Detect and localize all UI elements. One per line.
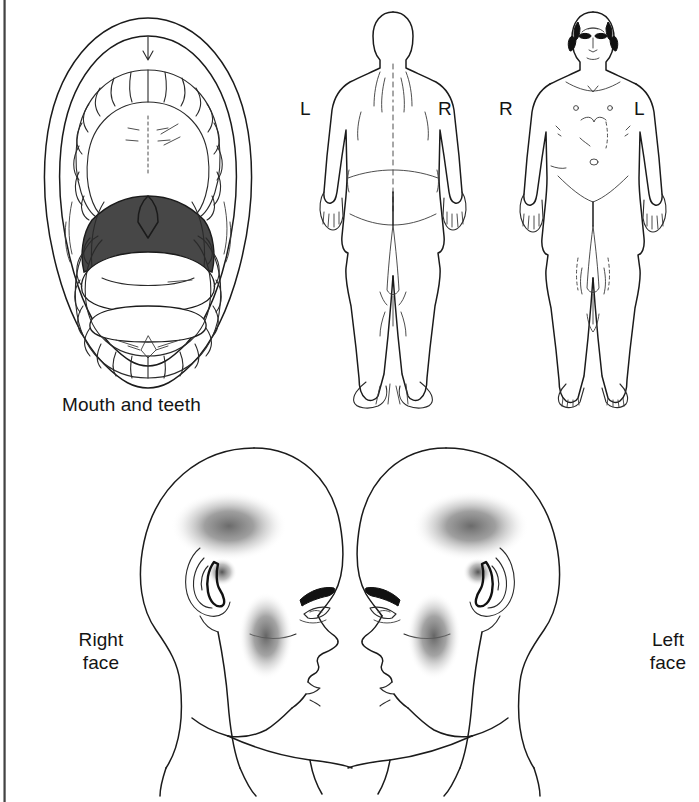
front-chest-and-abdomen-detail xyxy=(551,82,630,168)
front-feet xyxy=(558,384,627,408)
left-face-caption: Left face xyxy=(640,628,696,674)
back-label-left: L xyxy=(300,98,311,120)
temporal-shade-left xyxy=(413,491,529,561)
back-spine-and-scapulae xyxy=(348,64,439,212)
philtrum-notch xyxy=(143,37,153,60)
back-feet xyxy=(354,382,433,408)
body-back-illustration xyxy=(318,6,468,416)
front-label-right: L xyxy=(634,98,645,120)
back-label-right: R xyxy=(438,98,452,120)
temporal-shade-right xyxy=(171,491,287,561)
masseter-shade-left xyxy=(407,592,461,680)
preauricular-shade-left xyxy=(463,558,493,586)
figure-sheet: Mouth and teeth xyxy=(0,0,699,802)
front-torso-outline xyxy=(524,84,662,402)
right-face-caption: Right face xyxy=(58,628,144,674)
front-knees-and-legs xyxy=(577,258,610,332)
left-face-illustration xyxy=(330,438,596,798)
masseter-shade-right xyxy=(239,592,293,680)
front-head xyxy=(550,12,636,84)
body-front-illustration xyxy=(518,6,668,416)
tongue xyxy=(81,252,214,342)
mouth-caption: Mouth and teeth xyxy=(62,393,201,416)
page-edge-artifact xyxy=(3,0,6,802)
front-label-left: R xyxy=(499,98,513,120)
mouth-and-teeth-illustration xyxy=(28,6,268,396)
left-face-eye-and-brow xyxy=(365,588,400,624)
hard-palate-rugae xyxy=(126,116,180,174)
front-pelvis xyxy=(558,176,628,293)
back-gluteal-fold xyxy=(348,170,438,225)
preauricular-shade-right xyxy=(207,558,237,586)
